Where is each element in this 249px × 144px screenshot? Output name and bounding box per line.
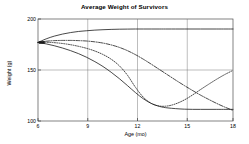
ytick-label-200: 200 — [14, 16, 36, 22]
xtick-label-15: 15 — [184, 123, 190, 129]
x-axis-label: Age (mo) — [38, 131, 233, 137]
y-axis-label: Weight (g) — [6, 51, 12, 95]
chart-figure: Average Weight of Survivors 200 150 10 — [0, 0, 249, 144]
xtick-label-6: 6 — [37, 123, 40, 129]
start-point-marker — [39, 41, 45, 44]
xtick-label-12: 12 — [135, 123, 141, 129]
xtick-label-18: 18 — [230, 123, 236, 129]
ytick-label-100: 100 — [14, 118, 36, 124]
xtick-label-9: 9 — [86, 123, 89, 129]
ytick-label-150: 150 — [14, 67, 36, 73]
